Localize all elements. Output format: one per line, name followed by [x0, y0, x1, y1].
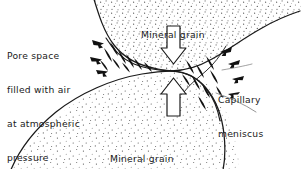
leader-line [222, 64, 252, 70]
label-top-mineral-grain-text: Mineral grain [141, 29, 205, 40]
label-capillary-meniscus-line-1: Capillary [218, 94, 263, 105]
diagram-canvas: Mineral grain Mineral grain Pore space f… [0, 0, 301, 169]
label-pore-space: Pore space filled with air at atmospheri… [7, 27, 80, 169]
label-bottom-mineral-grain-text: Mineral grain [110, 153, 174, 164]
label-pore-space-line-3: at atmospheric [7, 118, 80, 129]
label-pore-space-line-4: pressure [7, 152, 80, 163]
label-pore-space-line-1: Pore space [7, 50, 80, 61]
label-capillary-meniscus: Capillary meniscus [218, 71, 263, 162]
label-pore-space-line-2: filled with air [7, 84, 80, 95]
label-top-mineral-grain: Mineral grain [141, 6, 205, 63]
label-bottom-mineral-grain: Mineral grain [110, 130, 174, 169]
label-capillary-meniscus-line-2: meniscus [218, 128, 263, 139]
